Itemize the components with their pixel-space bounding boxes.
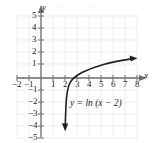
- x-tick-label-3: 3: [75, 80, 80, 89]
- x-tick-label-4: 4: [87, 80, 92, 89]
- y-tick-label--3: −3: [28, 109, 38, 118]
- y-tick-label-3: 3: [32, 35, 37, 44]
- y-tick-label--1: −1: [28, 85, 38, 94]
- figure-container: _ _ __ _ _: [0, 0, 155, 143]
- y-tick-label--2: −2: [28, 97, 38, 106]
- x-tick-label-8: 8: [135, 80, 140, 89]
- equation-label: y = ln (x − 2): [70, 98, 122, 108]
- graph-canvas: [0, 0, 155, 143]
- x-tick-label-6: 6: [111, 80, 116, 89]
- x-tick-label-5: 5: [99, 80, 104, 89]
- x-tick-label-1: 1: [51, 80, 56, 89]
- curve-arrow-right: [130, 55, 138, 61]
- log-curve: [62, 55, 138, 131]
- x-axis-label: x: [144, 71, 148, 80]
- y-axis-label: y: [42, 3, 46, 12]
- x-tick-label-7: 7: [123, 80, 128, 89]
- y-tick-label-2: 2: [32, 47, 37, 56]
- y-tick-label-5: 5: [32, 11, 37, 20]
- y-tick-label--4: −4: [28, 121, 38, 130]
- y-tick-label--5: −5: [28, 133, 38, 142]
- y-tick-label-4: 4: [32, 23, 37, 32]
- curve-arrow-down: [62, 123, 68, 131]
- y-tick-label-1: 1: [32, 59, 37, 68]
- y-axis: [38, 5, 44, 137]
- x-tick-label-2: 2: [63, 80, 68, 89]
- x-tick-label--2: −2: [12, 80, 22, 89]
